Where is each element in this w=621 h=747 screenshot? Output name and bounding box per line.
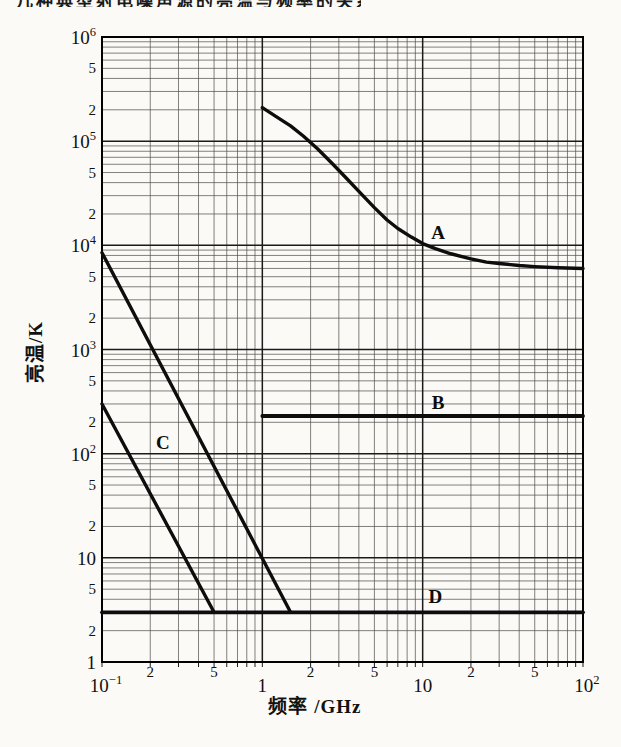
plot-area: 亮温/K 频率 /GHz 10−125125102510212510251022…: [0, 0, 621, 747]
chart-figure: 几种典型射电噪声源的亮温与频率的关系图 亮温/K 频率 /GHz 10−1251…: [0, 0, 621, 747]
plot-canvas: [0, 0, 621, 747]
